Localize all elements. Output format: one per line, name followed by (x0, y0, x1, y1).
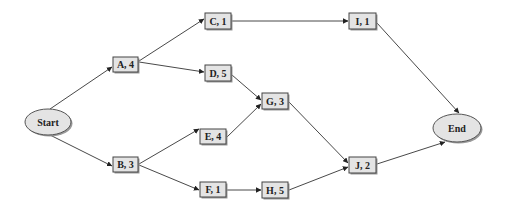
node-label: End (448, 123, 466, 134)
node-start: Start (25, 109, 73, 137)
node-label: B, 3 (117, 159, 134, 170)
node-J: J, 2 (349, 157, 378, 175)
node-label: G, 3 (266, 96, 284, 107)
diagram-svg: StartA, 4B, 3C, 1D, 5E, 4F, 1G, 3H, 5I, … (0, 0, 506, 211)
node-D: D, 5 (205, 65, 233, 83)
node-label: C, 1 (209, 16, 226, 27)
node-label: A, 4 (117, 59, 134, 70)
edge-D-to-G (232, 75, 261, 100)
edge-H-to-J (289, 167, 348, 190)
node-label: H, 5 (266, 185, 284, 196)
node-E: E, 4 (200, 129, 228, 146)
edge-E-to-G (227, 104, 261, 137)
edges-layer (50, 19, 459, 190)
node-label: F, 1 (205, 184, 220, 195)
activity-network-diagram: StartA, 4B, 3C, 1D, 5E, 4F, 1G, 3H, 5I, … (0, 0, 506, 211)
node-B: B, 3 (113, 157, 140, 174)
node-label: E, 4 (205, 131, 222, 142)
node-label: I, 1 (356, 16, 370, 27)
node-C: C, 1 (205, 13, 233, 31)
edge-B-to-E (139, 129, 199, 164)
edge-A-to-D (139, 62, 204, 72)
node-label: Start (37, 117, 59, 128)
edge-B-to-F (139, 165, 199, 190)
node-H: H, 5 (262, 182, 290, 200)
node-F: F, 1 (200, 182, 228, 199)
edge-I-to-end (377, 23, 459, 113)
edge-A-to-C (139, 19, 204, 61)
edge-start-to-B (50, 135, 112, 166)
edge-J-to-end (377, 142, 445, 164)
node-label: J, 2 (355, 160, 370, 171)
node-end: End (433, 114, 483, 144)
node-I: I, 1 (349, 13, 378, 31)
edge-G-to-J (289, 102, 348, 163)
node-A: A, 4 (113, 57, 140, 74)
node-label: D, 5 (209, 68, 226, 79)
edge-start-to-A (50, 67, 112, 109)
nodes-layer: StartA, 4B, 3C, 1D, 5E, 4F, 1G, 3H, 5I, … (25, 13, 483, 200)
node-G: G, 3 (262, 93, 290, 111)
